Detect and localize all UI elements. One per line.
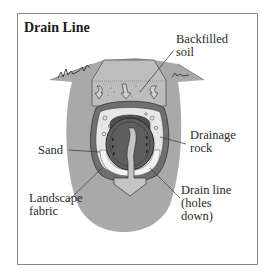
label-landscape-fabric: Landscape fabric [29, 192, 82, 218]
diagram-title: Drain Line [24, 20, 90, 36]
label-drain-line: Drain line (holes down) [181, 184, 231, 223]
label-backfilled-soil: Backfilled soil [176, 33, 228, 59]
backfilled-soil [92, 60, 166, 106]
label-drainage-rock: Drainage rock [190, 129, 236, 155]
label-sand: Sand [38, 144, 63, 157]
